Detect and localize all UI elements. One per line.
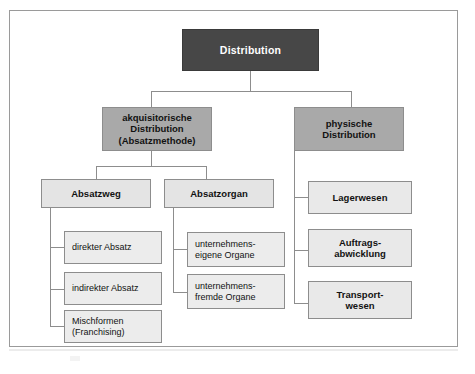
- connector-absatzweg-trunk: [50, 207, 51, 326]
- node-akquisitorische-distribution[interactable]: akquisitorische Distribution (Absatzmeth…: [102, 107, 212, 151]
- node-lagerwesen[interactable]: Lagerwesen: [308, 181, 412, 214]
- connector-absatzorgan-stub-2: [173, 292, 187, 293]
- node-absatzweg[interactable]: Absatzweg: [41, 179, 151, 208]
- node-label: unternehmens- eigene Organe: [195, 239, 256, 260]
- connector-to-akquisitorische: [151, 91, 152, 107]
- connector-absatzweg-stub-1: [50, 247, 64, 248]
- node-direkter-absatz[interactable]: direkter Absatz: [64, 231, 162, 264]
- diagram-canvas: Distribution akquisitorische Distributio…: [0, 0, 475, 374]
- node-physische-distribution[interactable]: physische Distribution: [294, 107, 404, 151]
- node-label: Distribution: [220, 44, 281, 56]
- node-label: akquisitorische Distribution (Absatzmeth…: [118, 112, 195, 146]
- node-transportwesen[interactable]: Transport- wesen: [308, 281, 412, 319]
- connector-to-physische: [351, 91, 352, 107]
- scan-artifact-line: [9, 349, 458, 351]
- connector-level3-bus: [96, 166, 206, 167]
- node-label: unternehmens- fremde Organe: [195, 281, 256, 302]
- node-label: Mischformen (Franchising): [72, 316, 125, 337]
- connector-root-stem: [250, 71, 251, 91]
- connector-akquisitorische-stem: [151, 151, 152, 166]
- node-mischformen-franchising[interactable]: Mischformen (Franchising): [64, 310, 162, 343]
- connector-to-absatzorgan: [206, 166, 207, 179]
- node-indirekter-absatz[interactable]: indirekter Absatz: [64, 272, 162, 305]
- connector-root-bus: [151, 91, 351, 92]
- node-distribution[interactable]: Distribution: [182, 29, 319, 71]
- node-label: Transport- wesen: [337, 289, 384, 311]
- node-unternehmenseigene-organe[interactable]: unternehmens- eigene Organe: [187, 232, 285, 267]
- connector-absatzweg-stub-2: [50, 289, 64, 290]
- connector-to-absatzweg: [96, 166, 97, 179]
- figure-frame: Distribution akquisitorische Distributio…: [9, 10, 458, 347]
- node-label: Absatzorgan: [190, 188, 248, 199]
- node-label: physische Distribution: [322, 118, 375, 140]
- node-absatzorgan[interactable]: Absatzorgan: [164, 179, 274, 208]
- node-label: Lagerwesen: [333, 192, 388, 203]
- scan-artifact-mark: [70, 356, 80, 361]
- node-label: direkter Absatz: [72, 242, 132, 253]
- connector-absatzorgan-stub-1: [173, 249, 187, 250]
- connector-physische-trunk: [294, 151, 295, 303]
- node-unternehmensfremde-organe[interactable]: unternehmens- fremde Organe: [187, 274, 285, 309]
- node-label: Auftrags- abwicklung: [334, 237, 386, 259]
- node-auftragsabwicklung[interactable]: Auftrags- abwicklung: [308, 229, 412, 267]
- connector-physische-stub-3: [294, 303, 308, 304]
- connector-physische-stub-1: [294, 197, 308, 198]
- connector-physische-stub-2: [294, 250, 308, 251]
- node-label: indirekter Absatz: [72, 283, 139, 294]
- node-label: Absatzweg: [71, 188, 121, 199]
- connector-absatzweg-stub-3: [50, 326, 64, 327]
